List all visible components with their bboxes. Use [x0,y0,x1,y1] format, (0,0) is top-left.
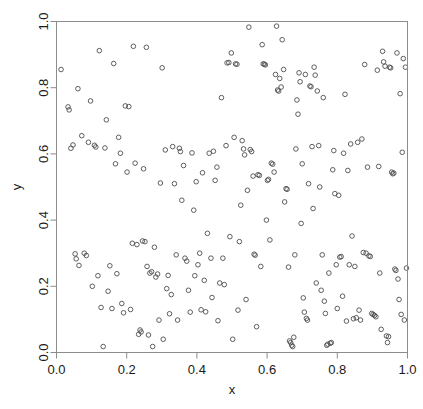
x-axis-tick-label: 0.0 [47,362,65,377]
y-axis-tick-label: 1.0 [36,12,51,30]
y-axis-tick-label: 0.6 [36,145,51,163]
x-axis-tick-label: 0.6 [258,362,276,377]
y-axis-title: y [9,183,24,190]
plot-background [0,0,423,409]
x-axis-tick-label: 0.4 [188,362,206,377]
y-axis-tick-label: 0.8 [36,79,51,97]
scatter-plot-figure: 0.00.20.40.60.81.0 0.00.20.40.60.81.0 x … [0,0,423,409]
x-axis-tick-label: 1.0 [398,362,416,377]
y-axis-tick-label: 0.4 [36,211,51,229]
y-axis-tick-label: 0.2 [36,277,51,295]
x-axis-title: x [229,382,236,397]
x-axis-tick-label: 0.2 [118,362,136,377]
x-axis-tick-label: 0.8 [328,362,346,377]
plot-canvas: 0.00.20.40.60.81.0 0.00.20.40.60.81.0 x … [0,0,423,409]
y-axis-tick-label: 0.0 [36,343,51,361]
